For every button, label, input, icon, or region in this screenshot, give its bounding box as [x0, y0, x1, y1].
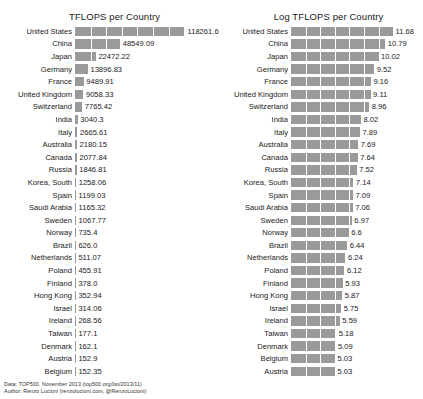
gridline: [335, 90, 336, 99]
category-label: Denmark: [212, 342, 291, 351]
gridline: [335, 316, 336, 325]
category-label: Hong Kong: [212, 291, 291, 300]
bar-value-label: 9.16: [371, 77, 388, 86]
gridline: [335, 216, 336, 225]
gridline: [349, 216, 350, 225]
gridline: [364, 102, 365, 111]
gridline: [349, 178, 350, 187]
bar-track: 1846.81: [75, 164, 211, 177]
bar-track: 1199.03: [75, 189, 211, 202]
gridline: [320, 165, 321, 174]
bar: [291, 153, 358, 162]
category-label: Brazil: [0, 241, 75, 250]
gridline: [349, 52, 350, 61]
gridline: [306, 278, 307, 287]
bar-track: 8.96: [291, 101, 423, 114]
bar: [291, 316, 340, 325]
bar-row: United States11.68: [212, 25, 423, 38]
bar-value-label: 13896.83: [88, 65, 122, 74]
bar: [75, 127, 77, 136]
bar-track: 6.6: [291, 227, 423, 240]
category-label: Italy: [212, 128, 291, 137]
gridline: [320, 190, 321, 199]
bar: [291, 216, 352, 225]
bar-value-label: 152.35: [76, 367, 102, 376]
bar-track: 48549.09: [75, 38, 211, 51]
chart-tflops-per-country: TFLOPS per Country United States118261.6…: [0, 0, 211, 372]
bar: [291, 39, 385, 48]
gridline: [306, 153, 307, 162]
bar: [291, 190, 353, 199]
bar: [291, 354, 335, 363]
gridline: [306, 115, 307, 124]
gridline: [306, 354, 307, 363]
bar: [291, 203, 353, 212]
bar-value-label: 7765.42: [82, 102, 112, 111]
gridline: [335, 153, 336, 162]
category-label: Canada: [212, 153, 291, 162]
bar-value-label: 7.64: [358, 153, 375, 162]
gridline: [335, 77, 336, 86]
bar: [75, 253, 76, 262]
bar-value-label: 10.02: [379, 52, 401, 61]
bar-row: Italy2665.61: [0, 126, 211, 139]
gridline: [306, 127, 307, 136]
bar-track: 1258.06: [75, 176, 211, 189]
bar-value-label: 22472.22: [96, 52, 130, 61]
gridline: [335, 140, 336, 149]
gridline: [306, 39, 307, 48]
gridline: [335, 203, 336, 212]
category-label: Denmark: [0, 342, 75, 351]
category-label: Norway: [212, 228, 291, 237]
category-label: Spain: [0, 191, 75, 200]
category-label: Israel: [212, 304, 291, 313]
bar-track: 9.16: [291, 75, 423, 88]
gridline: [306, 253, 307, 262]
bar-value-label: 177.1: [76, 329, 98, 338]
bar-row: Hong Kong5.87: [212, 289, 423, 302]
gridline: [320, 266, 321, 275]
bar-row: Australia7.69: [212, 138, 423, 151]
bar-row: Netherlands6.24: [212, 252, 423, 265]
bar-row: Taiwan177.1: [0, 327, 211, 340]
bar: [75, 354, 76, 363]
gridline: [306, 77, 307, 86]
bar-value-label: 7.06: [353, 203, 370, 212]
gridline: [320, 291, 321, 300]
gridline: [335, 165, 336, 174]
bar-track: 511.07: [75, 252, 211, 265]
bar: [75, 115, 78, 124]
bar-value-label: 1199.03: [76, 191, 105, 200]
category-label: Ireland: [0, 316, 75, 325]
category-label: Sweden: [212, 216, 291, 225]
bar-track: 7.69: [291, 138, 423, 151]
bar-value-label: 1258.06: [76, 178, 106, 187]
gridline: [349, 153, 350, 162]
bar: [75, 316, 76, 325]
bar-row: United States118261.6: [0, 25, 211, 38]
gridline: [335, 115, 336, 124]
bar-row: Switzerland8.96: [212, 101, 423, 114]
bar: [291, 253, 345, 262]
bar-row: United Kingdom9.11: [212, 88, 423, 101]
bar-value-label: 6.44: [347, 241, 364, 250]
gridline: [364, 64, 365, 73]
bar: [75, 203, 76, 212]
gridline: [306, 102, 307, 111]
bar: [75, 64, 88, 73]
bar-row: Denmark162.1: [0, 340, 211, 353]
bar-row: France9.16: [212, 75, 423, 88]
category-label: Israel: [0, 304, 75, 313]
bar-row: India8.02: [212, 113, 423, 126]
bar-track: 7765.42: [75, 101, 211, 114]
category-label: Finland: [0, 279, 75, 288]
bar-value-label: 9058.33: [83, 90, 113, 99]
gridline: [320, 102, 321, 111]
gridline: [335, 178, 336, 187]
category-label: Hong Kong: [0, 291, 75, 300]
bar-value-label: 8.96: [369, 102, 386, 111]
bar-track: 378.0: [75, 277, 211, 290]
gridline: [349, 77, 350, 86]
category-label: United States: [212, 27, 291, 36]
gridline: [306, 90, 307, 99]
